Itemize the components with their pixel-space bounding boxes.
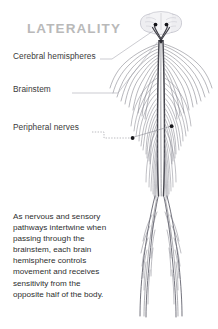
thoracic-nerve-plexus-right bbox=[165, 78, 192, 164]
leader-line-brainstem bbox=[72, 42, 158, 93]
callout-label-peripheral-nerves: Peripheral nerves bbox=[13, 122, 79, 132]
leg-nerves-left bbox=[140, 196, 158, 317]
callout-label-cerebral-hemispheres: Cerebral hemispheres bbox=[13, 51, 96, 61]
page-title: LATERALITY bbox=[27, 21, 121, 36]
laterality-infographic: LATERALITY Cerebral hemispheres Brainste… bbox=[0, 0, 218, 329]
spinal-cord bbox=[158, 41, 165, 196]
lumbar-nerve-plexus-right bbox=[165, 128, 177, 200]
leg-nerves-right bbox=[164, 196, 182, 317]
brain-icon bbox=[140, 12, 181, 35]
marker-dot-right bbox=[170, 124, 174, 128]
marker-dot-left bbox=[131, 136, 135, 140]
description-paragraph: As nervous and sensory pathways intertwi… bbox=[13, 211, 109, 300]
callout-label-brainstem: Brainstem bbox=[13, 84, 51, 94]
lumbar-nerve-plexus-left bbox=[146, 128, 158, 200]
thoracic-nerve-plexus-left bbox=[131, 78, 158, 164]
